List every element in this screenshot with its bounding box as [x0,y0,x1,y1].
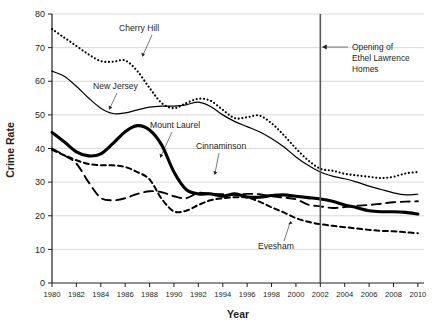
crime-rate-line-chart: 01020304050607080 1980198219841986198819… [0,0,433,327]
x-tick-label-1994: 1994 [214,290,231,299]
x-tick-label-1980: 1980 [44,290,61,299]
x-tick-label-1996: 1996 [239,290,256,299]
x-tick-label-1992: 1992 [190,290,207,299]
y-tick-label-10: 10 [35,245,45,255]
x-tick-label-2006: 2006 [361,290,378,299]
annotation-line-1: Opening of [352,42,394,52]
y-tick-label-40: 40 [35,144,45,154]
x-tick-label-2010: 2010 [409,290,426,299]
x-tick-label-1986: 1986 [117,290,134,299]
series-label-text-cherry-hill: Cherry Hill [119,23,159,33]
series-label-text-new-jersey: New Jersey [93,81,139,91]
x-tick-label-2000: 2000 [287,290,304,299]
y-tick-label-50: 50 [35,110,45,120]
y-tick-label-70: 70 [35,43,45,53]
y-tick-label-80: 80 [35,9,45,19]
x-tick-label-1998: 1998 [263,290,280,299]
y-axis-tick-labels: 01020304050607080 [35,9,45,288]
x-tick-label-1990: 1990 [166,290,183,299]
annotation-line-3: Homes [352,64,379,74]
x-tick-label-2008: 2008 [385,290,402,299]
x-tick-label-1982: 1982 [68,290,85,299]
annotation-line-2: Ethel Lawrence [352,53,410,63]
x-tick-label-1988: 1988 [141,290,158,299]
y-tick-label-0: 0 [40,278,45,288]
y-tick-label-30: 30 [35,177,45,187]
x-tick-label-2002: 2002 [312,290,329,299]
series-label-text-cinnaminson: Cinnaminson [196,141,246,151]
chart-canvas: 01020304050607080 1980198219841986198819… [0,0,433,327]
y-tick-label-20: 20 [35,211,45,221]
x-tick-label-2004: 2004 [336,290,353,299]
y-tick-label-60: 60 [35,76,45,86]
series-label-text-evesham: Evesham [258,241,294,251]
y-axis-title: Crime Rate [4,122,16,178]
series-label-text-mount-laurel: Mount Laurel [150,120,200,130]
x-axis-title: Year [227,308,249,320]
x-tick-label-1984: 1984 [92,290,109,299]
